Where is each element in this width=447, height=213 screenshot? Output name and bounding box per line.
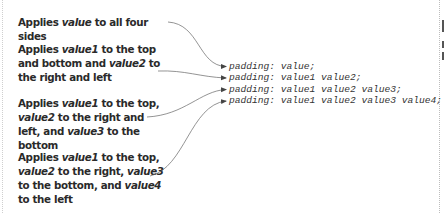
arrow-1-icon — [168, 22, 226, 67]
arrow-3-icon — [147, 90, 226, 118]
connector-arrows — [0, 0, 447, 213]
arrow-4-icon — [150, 101, 226, 176]
arrow-2-icon — [158, 71, 226, 78]
